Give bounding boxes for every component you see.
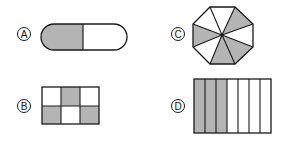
option-b[interactable]: B (18, 87, 100, 124)
option-a[interactable]: A (18, 24, 128, 50)
octagon-shaded-segment (222, 7, 253, 35)
grid-shaded-cell (61, 87, 80, 106)
octagon-center-dot (220, 33, 223, 36)
option-a-label: A (21, 29, 28, 40)
option-c[interactable]: C (172, 7, 254, 64)
strips-shaded-region (194, 79, 227, 133)
option-b-label: B (21, 101, 28, 112)
option-d-label: D (174, 101, 181, 112)
option-c-label: C (174, 29, 181, 40)
fraction-figures: A C B (0, 0, 292, 146)
capsule-shaded-half (41, 24, 83, 50)
grid-shaded-cell (80, 106, 99, 124)
option-d[interactable]: D (172, 79, 272, 133)
octagon-shaded-segment (193, 24, 222, 47)
grid-shaded-cell (42, 106, 61, 124)
